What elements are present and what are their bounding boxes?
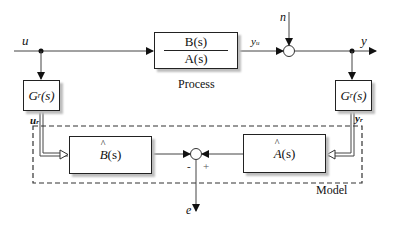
signal-yr-label: yr <box>355 113 363 124</box>
summing-junction-output <box>284 46 295 57</box>
a-hat-label: A(s) <box>244 135 325 172</box>
wire-yr-outer <box>327 111 354 156</box>
gr-right-base: G <box>340 88 349 104</box>
process-transfer-function: B(s) A(s) <box>164 34 228 67</box>
open-arrow-yr <box>327 150 335 159</box>
gr-right-arg: (s) <box>353 88 367 104</box>
wire-yr-inner <box>335 111 351 153</box>
signal-yr-sub: r <box>360 116 363 124</box>
process-block: B(s) A(s) <box>154 32 238 69</box>
process-caption: Process <box>178 78 215 90</box>
gr-left-base: G <box>28 88 37 104</box>
signal-n-label: n <box>280 11 286 23</box>
block-diagram: B(s) A(s) Process Gr(s) Gr(s) B(s) A(s) … <box>0 0 394 225</box>
a-hat-symbol: A <box>274 146 282 162</box>
signal-y-label: y <box>361 34 367 47</box>
process-denominator: A(s) <box>184 51 207 67</box>
signal-ur-sub: r <box>36 118 39 126</box>
signal-yu-label: yu <box>251 36 259 47</box>
signal-yu-sub: u <box>256 39 260 47</box>
signal-u-label: u <box>22 34 29 47</box>
a-hat-arg: (s) <box>282 146 296 162</box>
b-hat-arg: (s) <box>108 147 122 163</box>
b-hat-label: B(s) <box>70 137 151 173</box>
wire-ur-outer <box>40 111 68 156</box>
gr-filter-right-block: Gr(s) <box>335 80 372 111</box>
gr-left-arg: (s) <box>41 88 55 104</box>
open-arrow-ur <box>60 150 68 159</box>
gr-filter-left-block: Gr(s) <box>23 80 60 111</box>
a-hat-block: A(s) <box>243 134 326 173</box>
signal-ur-label: ur <box>30 115 39 126</box>
summing-junction-error <box>191 149 202 160</box>
minus-sign: - <box>187 161 191 172</box>
b-hat-block: B(s) <box>69 136 152 174</box>
b-hat-symbol: B <box>100 147 108 163</box>
signal-e-label: e <box>186 204 191 216</box>
gr-left-label: Gr(s) <box>24 81 59 110</box>
plus-sign: + <box>203 161 209 172</box>
process-numerator: B(s) <box>185 34 207 50</box>
wire-ur-inner <box>43 111 60 153</box>
gr-right-label: Gr(s) <box>336 81 371 110</box>
model-label: Model <box>316 184 347 196</box>
